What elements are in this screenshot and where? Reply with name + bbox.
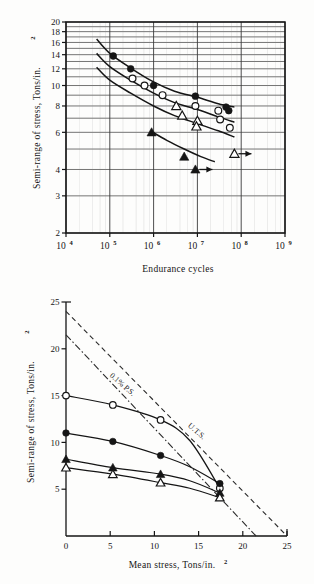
- marker-open-circle: [129, 75, 136, 82]
- marker-filled-triangle: [147, 128, 156, 136]
- x-tick-label: 109: [275, 239, 292, 252]
- curve-series-filled-triangle: [66, 459, 220, 493]
- y-axis-tick-labels: 23468101214161820: [51, 17, 61, 238]
- marker-open-circle: [192, 103, 199, 110]
- y-tick-label: 18: [51, 27, 61, 37]
- svg-text:Semi-range of stress, Tons/in.: Semi-range of stress, Tons/in.: [32, 67, 42, 189]
- y-tick-label: 8: [56, 101, 61, 111]
- x-tick-label: 105: [100, 239, 117, 252]
- runout-arrow-icon: [238, 151, 251, 157]
- y-tick-label: 25: [51, 297, 61, 307]
- y-tick-label: 4: [56, 165, 61, 175]
- data-curves: [97, 39, 235, 162]
- x-tick-label: 108: [231, 239, 248, 252]
- marker-open-circle: [215, 107, 222, 114]
- svg-text:2: 2: [224, 558, 228, 565]
- svg-text:Mean stress, Tons/in.: Mean stress, Tons/in.: [129, 560, 216, 570]
- svg-text:6: 6: [157, 239, 161, 246]
- marker-open-circle: [159, 92, 166, 99]
- y-tick-label: 3: [56, 191, 61, 201]
- svg-text:2: 2: [23, 330, 30, 334]
- y-tick-label: 2: [56, 228, 61, 238]
- marker-open-circle: [110, 402, 117, 409]
- curve-series-filled-circle: [66, 433, 220, 484]
- reference-lines: [66, 311, 287, 536]
- y-tick-label: 6: [56, 128, 61, 138]
- marker-filled-circle: [110, 438, 117, 445]
- x-tick-label: 20: [238, 541, 248, 551]
- x-axis-title: Mean stress, Tons/in.2: [129, 558, 228, 570]
- marker-filled-triangle: [62, 455, 71, 463]
- x-tick-label: 25: [283, 541, 293, 551]
- curve-series-open-circle: [66, 396, 220, 489]
- marker-open-circle: [226, 124, 233, 131]
- uts-line-label: U.T.S.: [186, 421, 207, 441]
- svg-text:8: 8: [245, 239, 249, 246]
- svg-text:10: 10: [188, 241, 198, 251]
- plot-axes: [66, 302, 287, 536]
- x-axis-tick-labels: 0510152025: [64, 541, 292, 551]
- svg-text:10: 10: [275, 241, 285, 251]
- y-tick-label: 16: [51, 38, 61, 48]
- marker-open-triangle: [62, 463, 71, 471]
- data-markers: [110, 53, 252, 173]
- data-curves: [66, 396, 220, 498]
- marker-filled-circle: [192, 93, 199, 100]
- x-tick-label: 0: [64, 541, 69, 551]
- y-tick-label: 10: [51, 81, 61, 91]
- marker-filled-circle: [217, 480, 224, 487]
- marker-open-circle: [157, 417, 164, 424]
- marker-filled-circle: [150, 82, 157, 89]
- mean-stress-diagram-svg: U.T.S.0.1% P.S. 510152025 0510152025 Mea…: [0, 280, 314, 584]
- y-tick-label: 20: [51, 17, 61, 27]
- line-annotations: U.T.S.0.1% P.S.: [108, 371, 207, 441]
- x-tick-label: 5: [108, 541, 113, 551]
- x-axis-tick-labels: 104105106107108109: [56, 239, 292, 252]
- y-tick-label: 14: [51, 50, 61, 60]
- y-axis-title: Semi-range of stress, Tons/in. 2: [29, 36, 42, 189]
- y-tick-label: 20: [51, 344, 61, 354]
- svg-text:2: 2: [29, 36, 36, 40]
- x-tick-label: 15: [194, 541, 204, 551]
- marker-filled-circle: [127, 65, 134, 72]
- marker-filled-triangle: [180, 152, 189, 160]
- proof-stress-line: [66, 335, 256, 536]
- marker-open-triangle: [230, 149, 239, 157]
- svg-text:7: 7: [201, 239, 205, 246]
- x-tick-label: 107: [188, 239, 205, 252]
- marker-open-circle: [217, 116, 224, 123]
- plot-grid: [66, 22, 285, 233]
- marker-open-circle: [141, 82, 148, 89]
- svg-text:5: 5: [113, 239, 117, 246]
- y-axis-title: Semi-range of stress, Tons/in.2: [23, 330, 36, 483]
- x-tick-label: 10: [150, 541, 160, 551]
- marker-filled-circle: [110, 53, 117, 60]
- marker-open-circle: [63, 392, 70, 399]
- marker-filled-circle: [157, 452, 164, 459]
- svg-text:10: 10: [56, 241, 66, 251]
- x-tick-label: 104: [56, 239, 73, 252]
- y-tick-label: 15: [51, 391, 61, 401]
- uts-line: [66, 311, 287, 536]
- marker-open-triangle: [178, 111, 187, 119]
- svg-text:4: 4: [69, 239, 73, 246]
- svg-text:9: 9: [288, 239, 292, 246]
- svg-text:10: 10: [144, 241, 154, 251]
- svg-text:U.T.S.: U.T.S.: [186, 421, 207, 441]
- y-tick-label: 10: [51, 438, 61, 448]
- y-axis-tick-labels: 510152025: [51, 297, 61, 494]
- x-axis-title: Endurance cycles: [142, 264, 214, 274]
- svg-text:10: 10: [100, 241, 110, 251]
- x-axis-ticks: [110, 529, 287, 536]
- mean-stress-diagram-figure: U.T.S.0.1% P.S. 510152025 0510152025 Mea…: [0, 280, 314, 584]
- plot-frame: [66, 22, 285, 233]
- endurance-curve-figure: 23468101214161820 104105106107108109 End…: [0, 0, 314, 280]
- marker-filled-triangle: [191, 165, 200, 173]
- y-tick-label: 12: [51, 64, 60, 74]
- svg-text:Semi-range of stress, Tons/in.: Semi-range of stress, Tons/in.: [26, 361, 36, 483]
- endurance-curve-svg: 23468101214161820 104105106107108109 End…: [0, 0, 314, 280]
- figure-page: 23468101214161820 104105106107108109 End…: [0, 0, 314, 584]
- marker-filled-circle: [225, 107, 232, 114]
- y-tick-label: 5: [55, 484, 60, 494]
- x-tick-label: 106: [144, 239, 161, 252]
